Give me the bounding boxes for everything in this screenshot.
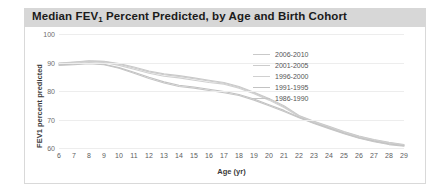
legend-swatch [253,65,270,66]
gridline [59,120,404,121]
x-tick-label: 26 [355,152,363,159]
y-tick-label: 70 [47,116,55,123]
gridline [59,148,404,149]
x-tick-label: 17 [220,152,228,159]
plot-frame: FEV1 percent predicted Age (yr) 60708090… [24,27,426,184]
legend-item[interactable]: 1986-1990 [253,93,363,104]
x-tick-label: 14 [175,152,183,159]
legend-label: 2006-2010 [275,51,308,58]
x-tick-label: 23 [310,152,318,159]
x-tick-label: 16 [205,152,213,159]
x-tick-label: 22 [295,152,303,159]
gridline [59,34,404,35]
x-tick-label: 18 [235,152,243,159]
y-axis-title: FEV1 percent predicted [35,46,45,166]
legend-item[interactable]: 2001-2005 [253,60,363,71]
title-suffix: Percent Predicted, by Age and Birth Coho… [103,10,347,22]
x-tick-label: 20 [265,152,273,159]
x-tick-label: 21 [280,152,288,159]
x-tick-label: 19 [250,152,258,159]
x-tick-label: 27 [370,152,378,159]
y-tick-label: 100 [43,31,55,38]
legend-swatch [253,98,270,99]
title-prefix: Median FEV [32,10,98,22]
legend-label: 1986-1990 [275,95,308,102]
x-tick-label: 15 [190,152,198,159]
legend-swatch [253,87,270,88]
x-axis-title: Age (yr) [59,167,404,176]
x-tick-label: 9 [102,152,106,159]
title-subscript: 1 [98,15,103,24]
x-tick-label: 13 [160,152,168,159]
legend-swatch [253,54,270,55]
figure-container: Median FEV1 Percent Predicted, by Age an… [24,8,426,184]
x-tick-label: 12 [145,152,153,159]
x-tick-label: 8 [87,152,91,159]
legend-label: 2001-2005 [275,62,308,69]
legend-item[interactable]: 1991-1995 [253,82,363,93]
x-tick-label: 10 [115,152,123,159]
x-tick-label: 7 [72,152,76,159]
x-tick-label: 29 [400,152,408,159]
legend-label: 1991-1995 [275,84,308,91]
x-tick-label: 24 [325,152,333,159]
x-tick-label: 6 [57,152,61,159]
y-tick-label: 60 [47,145,55,152]
x-tick-label: 11 [130,152,137,159]
y-tick-label: 80 [47,88,55,95]
y-tick-label: 90 [47,59,55,66]
x-tick-label: 25 [340,152,348,159]
chart-legend: 2006-20102001-20051996-20001991-19951986… [253,49,363,104]
legend-label: 1996-2000 [275,73,308,80]
page-title: Median FEV1 Percent Predicted, by Age an… [32,10,347,22]
legend-swatch [253,76,270,77]
legend-item[interactable]: 1996-2000 [253,71,363,82]
x-tick-label: 28 [385,152,393,159]
chart-title-bar: Median FEV1 Percent Predicted, by Age an… [24,8,426,27]
legend-item[interactable]: 2006-2010 [253,49,363,60]
